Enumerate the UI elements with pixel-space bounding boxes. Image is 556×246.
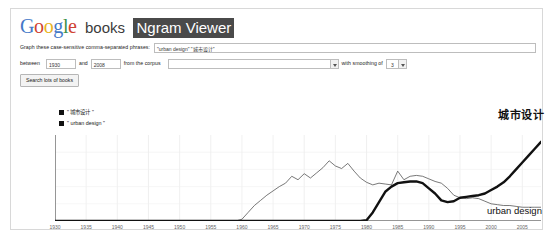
- ngram-viewer-page: Google books Ngram Viewer Graph these ca…: [0, 0, 556, 246]
- start-year-input[interactable]: 1930: [46, 59, 76, 69]
- ngram-viewer-title: Ngram Viewer: [133, 18, 234, 38]
- legend-swatch-en: [59, 121, 64, 126]
- phrases-input[interactable]: "urban design" "城市设计": [154, 43, 536, 53]
- chart-series-line[interactable]: [55, 142, 541, 221]
- logo-letter-o2: o: [44, 15, 54, 37]
- query-form: Graph these case-sensitive comma-separat…: [20, 41, 536, 89]
- x-axis-tick-label: 1965: [268, 222, 279, 232]
- chevron-down-icon-smoothing[interactable]: [398, 59, 407, 69]
- corpus-select[interactable]: [168, 59, 331, 69]
- series-annotation-cn: 城市设计: [498, 106, 544, 122]
- between-label: between: [20, 57, 40, 70]
- google-wordmark: Google: [20, 15, 77, 37]
- legend-item-cn[interactable]: " 城市设计 ": [59, 108, 105, 117]
- x-axis-tick-label: 1980: [361, 222, 372, 232]
- legend-swatch-cn: [59, 110, 64, 115]
- submit-row: Search lots of books: [20, 73, 536, 86]
- viewer-card: Google books Ngram Viewer Graph these ca…: [10, 8, 543, 230]
- x-axis-tick-label: 1955: [205, 222, 216, 232]
- legend-label-cn: " 城市设计 ": [67, 108, 94, 117]
- end-year-input[interactable]: 2008: [91, 59, 121, 69]
- smoothing-label: with smoothing of: [342, 57, 383, 70]
- phrases-row: Graph these case-sensitive comma-separat…: [20, 41, 536, 54]
- x-axis-tick-label: 2000: [486, 222, 497, 232]
- x-axis-tick-label: 1930: [49, 222, 60, 232]
- x-axis-tick-label: 1940: [112, 222, 123, 232]
- chart-series-line[interactable]: [55, 161, 541, 221]
- x-axis-tick-label: 1935: [81, 222, 92, 232]
- chart-axis-lines: [56, 135, 542, 221]
- x-axis-tick-label: 1990: [423, 222, 434, 232]
- x-axis-tick-label: 1970: [299, 222, 310, 232]
- options-row: between 1930 and 2008 from the corpus wi…: [20, 57, 536, 70]
- chevron-down-icon-corpus[interactable]: [330, 59, 339, 69]
- logo-letter-o1: o: [34, 15, 44, 37]
- graph-these-label: Graph these case-sensitive comma-separat…: [20, 41, 150, 54]
- books-label: books: [85, 19, 125, 36]
- x-axis-tick-label: 1985: [392, 222, 403, 232]
- legend-item-en[interactable]: " urban design ": [59, 119, 105, 128]
- logo-letter-e: e: [68, 15, 76, 37]
- legend-label-en: " urban design ": [67, 119, 105, 128]
- google-books-logo: Google books Ngram Viewer: [20, 16, 234, 36]
- corpus-label: from the corpus: [124, 57, 161, 70]
- logo-letter-g1: G: [20, 15, 34, 37]
- x-axis-tick-label: 1995: [454, 222, 465, 232]
- chart-x-axis: 1930193519401945195019551960196519701975…: [55, 222, 541, 232]
- search-books-button[interactable]: Search lots of books: [20, 74, 79, 87]
- x-axis-tick-label: 1960: [236, 222, 247, 232]
- x-axis-tick-label: 2005: [517, 222, 528, 232]
- ngram-chart[interactable]: [55, 135, 541, 221]
- chart-canvas: [55, 135, 541, 221]
- x-axis-tick-label: 1950: [174, 222, 185, 232]
- logo-letter-g2: g: [53, 15, 63, 37]
- x-axis-tick-label: 1975: [330, 222, 341, 232]
- chart-legend: " 城市设计 " " urban design ": [59, 108, 105, 130]
- x-axis-tick-label: 1945: [143, 222, 154, 232]
- and-label: and: [79, 57, 88, 70]
- series-annotation-en: urban design: [487, 205, 542, 216]
